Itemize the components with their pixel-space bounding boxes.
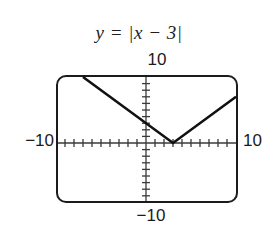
- absolute-value-curve: [83, 77, 236, 143]
- graphing-calculator-figure: y = |x − 3| 10 −10 −10 10: [0, 0, 278, 240]
- plot-canvas: [0, 0, 278, 240]
